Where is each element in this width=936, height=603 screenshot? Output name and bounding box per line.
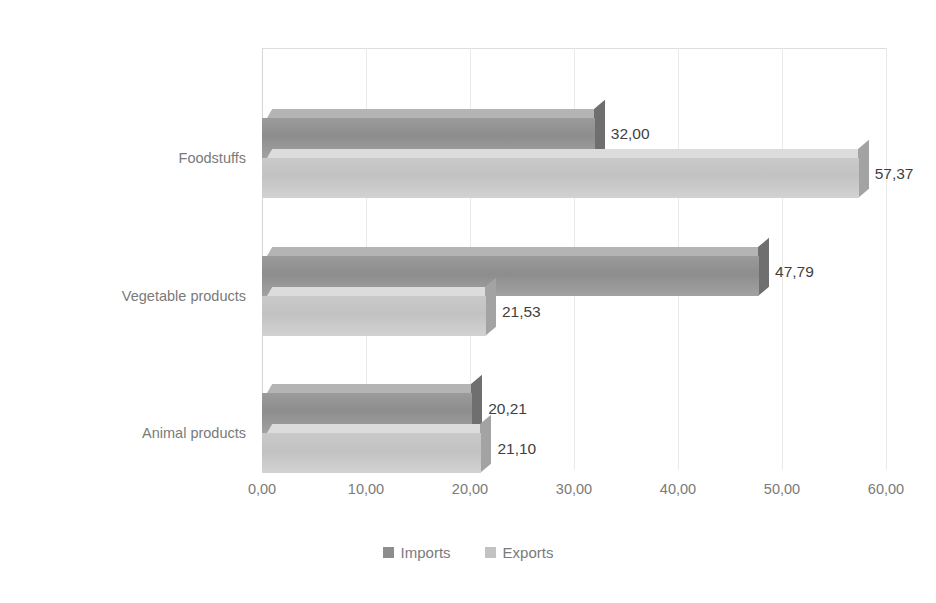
bar-body <box>262 433 481 473</box>
x-tick-label: 60,00 <box>868 482 904 497</box>
x-tick-label: 50,00 <box>764 482 800 497</box>
legend-item-exports[interactable]: Exports <box>485 545 554 560</box>
data-label-imports-foodstuffs: 32,00 <box>611 126 650 142</box>
plot-area: 20,2121,1047,7921,5332,0057,37 <box>262 48 886 470</box>
data-label-imports-animal-products: 20,21 <box>488 401 527 417</box>
bar-body <box>262 158 859 198</box>
data-label-exports-animal-products: 21,10 <box>497 441 536 457</box>
bar-exports-animal-products[interactable] <box>262 433 481 473</box>
bar-top-face <box>267 149 869 158</box>
bar-exports-vegetable-products[interactable] <box>262 296 486 336</box>
bar-end-cap <box>858 140 869 198</box>
chart-container: 20,2121,1047,7921,5332,0057,37 Animal pr… <box>0 0 936 603</box>
x-tick-label: 40,00 <box>660 482 696 497</box>
bar-end-cap <box>758 238 769 296</box>
x-tick-label: 20,00 <box>452 482 488 497</box>
bar-top-face <box>267 247 769 256</box>
category-label-animal-products: Animal products <box>142 426 246 441</box>
category-label-foodstuffs: Foodstuffs <box>179 151 246 166</box>
chart-legend: ImportsExports <box>0 545 936 560</box>
gridline <box>886 48 887 470</box>
legend-swatch-icon <box>485 547 496 558</box>
bar-end-cap <box>480 415 491 473</box>
legend-item-imports[interactable]: Imports <box>383 545 451 560</box>
bar-exports-foodstuffs[interactable] <box>262 158 859 198</box>
category-label-vegetable-products: Vegetable products <box>122 289 246 304</box>
bar-top-face <box>267 384 482 393</box>
x-tick-label: 0,00 <box>248 482 276 497</box>
legend-label: Exports <box>503 545 554 560</box>
x-tick-label: 10,00 <box>348 482 384 497</box>
bar-body <box>262 296 486 336</box>
bar-top-face <box>267 109 605 118</box>
x-tick-label: 30,00 <box>556 482 592 497</box>
data-label-exports-foodstuffs: 57,37 <box>875 166 914 182</box>
bar-top-face <box>267 287 496 296</box>
gridline <box>782 48 783 470</box>
bar-end-cap <box>485 278 496 336</box>
legend-swatch-icon <box>383 547 394 558</box>
bar-top-face <box>267 424 492 433</box>
data-label-exports-vegetable-products: 21,53 <box>502 304 541 320</box>
data-label-imports-vegetable-products: 47,79 <box>775 264 814 280</box>
legend-label: Imports <box>401 545 451 560</box>
value-axis-labels: 0,0010,0020,0030,0040,0050,0060,00 <box>262 482 886 506</box>
